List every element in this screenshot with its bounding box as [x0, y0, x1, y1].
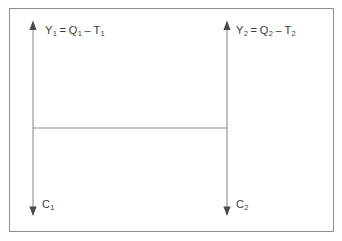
label-y1-operator: –	[82, 24, 94, 36]
left-arrow-head-up	[29, 21, 36, 31]
label-c2: C2	[236, 199, 249, 210]
label-y1-term1-sub: 1	[78, 29, 82, 38]
label-y2-term2: T	[284, 24, 291, 36]
label-y1-term2: T	[93, 24, 100, 36]
label-y1-var: Y	[45, 24, 53, 36]
left-arrow-head-down	[29, 207, 36, 217]
diagram-canvas: Y1=Q1–T1 Y2=Q2–T2 C1 C2	[0, 0, 342, 241]
label-c1-var-sub: 1	[50, 203, 54, 212]
label-c2-var-sub: 2	[244, 203, 248, 212]
label-y1-term2-sub: 1	[101, 29, 105, 38]
label-y2-equals: =	[248, 24, 260, 36]
label-y1-var-sub: 1	[53, 29, 57, 38]
label-y1-equals: =	[57, 24, 69, 36]
label-y2-term2-sub: 2	[292, 29, 296, 38]
label-c1: C1	[42, 199, 55, 210]
label-y2: Y2=Q2–T2	[236, 25, 296, 36]
label-y1-term1: Q	[69, 24, 78, 36]
label-y2-var: Y	[236, 24, 244, 36]
label-y2-operator: –	[273, 24, 285, 36]
label-y2-var-sub: 2	[244, 29, 248, 38]
right-arrow-head-down	[223, 207, 230, 217]
label-y2-term1: Q	[260, 24, 269, 36]
right-arrow-head-up	[223, 21, 230, 31]
label-y2-term1-sub: 2	[269, 29, 273, 38]
label-y1: Y1=Q1–T1	[45, 25, 105, 36]
